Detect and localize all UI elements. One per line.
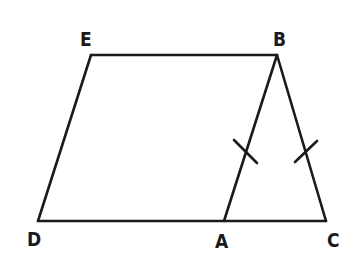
segment-BC [277, 55, 326, 221]
tick-mark-BC [295, 141, 317, 162]
tick-mark-AB [234, 140, 257, 163]
label-D: D [27, 228, 41, 250]
segment-BA [224, 55, 277, 221]
label-A: A [215, 230, 229, 252]
label-B: B [273, 28, 286, 50]
label-E: E [80, 28, 92, 50]
geometry-diagram: E B D A C [0, 0, 361, 267]
label-C: C [327, 229, 340, 251]
segment-ED [38, 55, 91, 221]
